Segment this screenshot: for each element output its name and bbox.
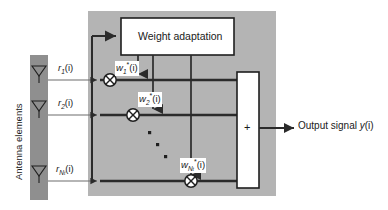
output-signal-label: Output signal y(i) bbox=[298, 121, 374, 131]
weight-base-wN: w bbox=[181, 159, 188, 170]
output-signal-prefix: Output signal bbox=[298, 120, 360, 131]
multiplier-icon[interactable] bbox=[185, 175, 197, 187]
weight-sub-w1: 1 bbox=[123, 68, 127, 75]
weight-label-w2: w2*(i) bbox=[138, 92, 162, 107]
output-signal-arg: (i) bbox=[365, 120, 374, 131]
input-arg-r2: (i) bbox=[65, 97, 73, 108]
weight-sub2-wN: t bbox=[193, 166, 194, 172]
weight-arg-wN: (i) bbox=[197, 159, 205, 170]
weight-arg-w2: (i) bbox=[152, 93, 160, 104]
input-label-rN: rNt(i) bbox=[56, 164, 74, 176]
weight-sub-w2: 2 bbox=[146, 99, 150, 106]
input-label-r1: r1(i) bbox=[58, 63, 73, 75]
weight-base-w1: w bbox=[116, 62, 123, 73]
input-label-r2: r2(i) bbox=[58, 98, 73, 110]
input-arg-r1: (i) bbox=[65, 62, 73, 73]
summer-plus-symbol: + bbox=[244, 122, 250, 133]
input-arg-rN: (i) bbox=[65, 163, 73, 174]
weight-base-w2: w bbox=[139, 93, 146, 104]
weight-label-w1: w1*(i) bbox=[115, 61, 139, 76]
weight-label-wN: wNt*(i) bbox=[180, 158, 206, 173]
antenna-elements-label: Antenna elements bbox=[14, 103, 24, 180]
weight-adaptation-label: Weight adaptation bbox=[138, 31, 222, 42]
weight-arg-w1: (i) bbox=[129, 62, 137, 73]
diagram-canvas: Antenna elements Weight adaptation r1(i)… bbox=[0, 0, 388, 210]
multiplier-icon[interactable] bbox=[104, 74, 116, 86]
multiplier-icon[interactable] bbox=[127, 109, 139, 121]
